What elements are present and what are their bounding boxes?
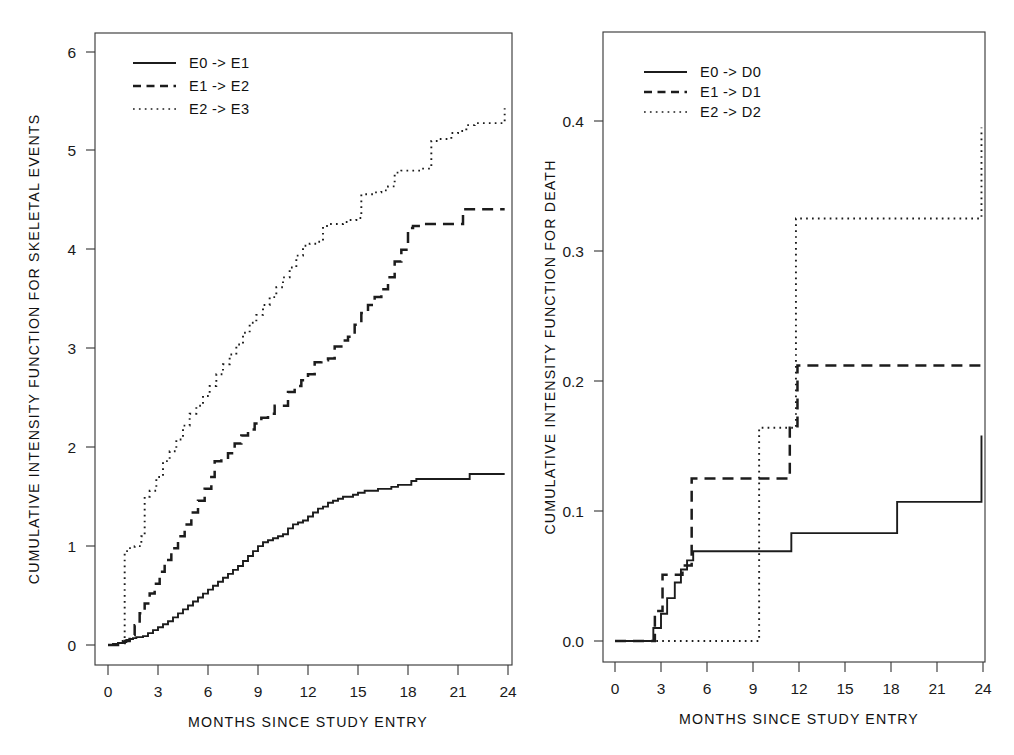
x-tick-label: 12 — [790, 680, 807, 697]
y-tick-label: 4 — [67, 241, 76, 258]
y-tick-label: 0.0 — [562, 633, 584, 650]
series-curve-e1-e2 — [108, 209, 505, 645]
plot-frame — [95, 33, 512, 665]
x-axis-title: MONTHS SINCE STUDY ENTRY — [679, 711, 919, 727]
y-axis-title: CUMULATIVE INTENSITY FUNCTION FOR DEATH — [542, 159, 558, 534]
series-curve-e2-e3 — [108, 108, 505, 645]
panel-skeletal-events: 6 5 4 3 2 1 0 0 3 — [0, 0, 530, 755]
x-tick-label: 12 — [299, 683, 316, 700]
x-tick-label: 3 — [657, 680, 666, 697]
figure-container: 6 5 4 3 2 1 0 0 3 — [0, 0, 1014, 755]
x-tick-label: 18 — [882, 680, 899, 697]
x-tick-label: 9 — [749, 680, 758, 697]
y-axis-tick-labels: 0.4 0.3 0.2 0.1 0.0 — [562, 113, 584, 650]
y-tick-label: 0.2 — [562, 373, 584, 390]
x-tick-label: 15 — [349, 683, 366, 700]
x-tick-label: 15 — [836, 680, 853, 697]
x-axis-tick-labels: 0 3 6 9 12 15 18 21 24 — [104, 683, 517, 700]
y-axis-tick-labels: 6 5 4 3 2 1 0 — [67, 44, 76, 654]
legend: E0 -> D0 E1 -> D1 E2 -> D2 — [644, 64, 761, 120]
legend-label: E1 -> D1 — [700, 84, 761, 100]
y-tick-label: 2 — [67, 439, 76, 456]
x-tick-label: 0 — [611, 680, 620, 697]
y-tick-label: 6 — [67, 44, 76, 61]
y-tick-label: 0.3 — [562, 243, 584, 260]
panel-death: 0.4 0.3 0.2 0.1 0.0 0 3 6 — [530, 0, 1014, 755]
x-tick-label: 24 — [499, 683, 517, 700]
panel-death-svg: 0.4 0.3 0.2 0.1 0.0 0 3 6 — [530, 0, 1014, 755]
legend-label: E0 -> D0 — [700, 64, 761, 80]
y-axis-title: CUMULATIVE INTENSITY FUNCTION FOR SKELET… — [26, 114, 42, 584]
panel-skeletal-events-svg: 6 5 4 3 2 1 0 0 3 — [0, 0, 530, 755]
legend-label: E1 -> E2 — [189, 78, 249, 94]
x-axis-tick-labels: 0 3 6 9 12 15 18 21 24 — [611, 680, 992, 697]
x-axis-ticks — [615, 662, 983, 672]
x-tick-label: 18 — [399, 683, 416, 700]
x-tick-label: 21 — [449, 683, 466, 700]
y-tick-label: 0 — [67, 637, 76, 654]
y-tick-label: 0.1 — [562, 503, 584, 520]
x-tick-label: 9 — [254, 683, 263, 700]
x-tick-label: 6 — [703, 680, 712, 697]
x-axis-ticks — [108, 665, 508, 675]
x-axis-title: MONTHS SINCE STUDY ENTRY — [188, 714, 428, 730]
y-tick-label: 1 — [67, 538, 76, 555]
x-tick-label: 24 — [974, 680, 992, 697]
legend-label: E2 -> D2 — [700, 104, 761, 120]
series-curve-e1-d1 — [615, 365, 981, 641]
series-group — [615, 128, 981, 642]
y-axis-ticks — [594, 121, 603, 641]
y-tick-label: 5 — [67, 142, 76, 159]
y-tick-label: 3 — [67, 340, 76, 357]
x-tick-label: 3 — [154, 683, 163, 700]
legend-label: E2 -> E3 — [189, 101, 249, 117]
y-tick-label: 0.4 — [562, 113, 584, 130]
legend-label: E0 -> E1 — [189, 55, 249, 71]
x-tick-label: 21 — [928, 680, 945, 697]
x-tick-label: 6 — [204, 683, 213, 700]
series-group — [108, 108, 505, 645]
series-curve-e0-d0 — [615, 436, 981, 641]
y-axis-ticks — [86, 52, 95, 645]
plot-frame — [603, 32, 985, 662]
legend: E0 -> E1 E1 -> E2 E2 -> E3 — [133, 55, 249, 117]
x-tick-label: 0 — [104, 683, 113, 700]
